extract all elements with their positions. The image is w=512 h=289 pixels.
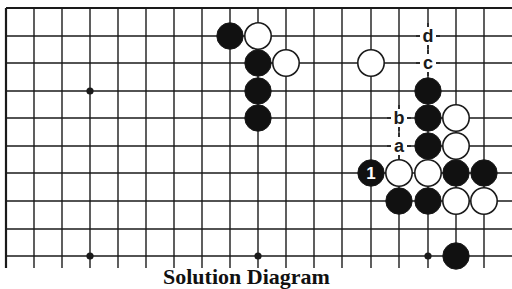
- white-stone: [443, 133, 469, 159]
- star-point: [86, 87, 93, 94]
- move-number-label: 1: [366, 164, 375, 183]
- point-label-d: d: [423, 26, 434, 46]
- star-point: [86, 252, 93, 259]
- black-stone: [415, 105, 441, 131]
- star-point: [254, 252, 261, 259]
- black-stone: [415, 78, 441, 104]
- black-stone: [386, 188, 412, 214]
- black-stone: [245, 78, 271, 104]
- white-stone: [386, 160, 412, 186]
- diagram-caption: Solution Diagram: [163, 266, 330, 288]
- star-point: [424, 252, 431, 259]
- black-stone: [245, 50, 271, 76]
- white-stone: [415, 160, 441, 186]
- white-stone: [471, 188, 497, 214]
- black-stone: [443, 160, 469, 186]
- white-stone: [245, 23, 271, 49]
- black-stone: [415, 133, 441, 159]
- black-stone: [471, 160, 497, 186]
- black-stone: [443, 243, 469, 269]
- white-stone: [443, 105, 469, 131]
- white-stone: [443, 188, 469, 214]
- point-label-a: a: [394, 136, 405, 156]
- black-stone: [415, 188, 441, 214]
- black-stone: [217, 23, 243, 49]
- point-label-b: b: [394, 108, 405, 128]
- white-stone: [358, 50, 384, 76]
- white-stone: [273, 50, 299, 76]
- point-label-c: c: [423, 53, 433, 73]
- black-stone: [245, 105, 271, 131]
